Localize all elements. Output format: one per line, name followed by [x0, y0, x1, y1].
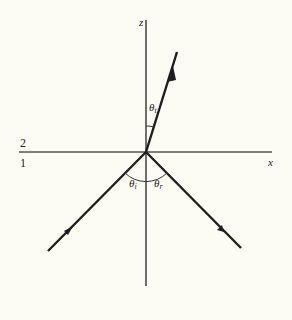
x-axis-label: x — [267, 156, 273, 168]
refraction-diagram: z x 2 1 θt θi θr — [0, 0, 292, 320]
reflected-ray — [146, 152, 241, 248]
medium-2-label: 2 — [20, 136, 26, 150]
incident-ray — [48, 152, 146, 251]
theta-r-label: θr — [154, 177, 163, 191]
theta-i-label: θi — [129, 177, 137, 191]
medium-1-label: 1 — [20, 156, 26, 170]
theta-t-label: θt — [149, 101, 157, 115]
z-axis-label: z — [138, 16, 144, 28]
